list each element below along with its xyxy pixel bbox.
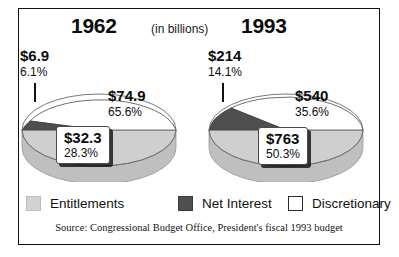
label-1962-discretionary-value: $74.9 <box>108 88 146 104</box>
label-1962-net-interest-percent: 6.1% <box>20 65 49 79</box>
square-swatch-icon-entitlements <box>26 196 41 211</box>
callout-1962-entitlements-percent: 28.3% <box>64 146 102 160</box>
square-swatch-icon-discretionary <box>288 196 303 211</box>
panel-title-1993: 1993 <box>241 14 287 38</box>
legend-item-entitlements: Entitlements <box>26 192 124 214</box>
callout-1962-entitlements: $32.3 28.3% <box>56 126 110 164</box>
label-1993-discretionary: $540 35.6% <box>295 88 329 119</box>
leader-line-1962 <box>34 83 36 102</box>
callout-1993-entitlements-value: $763 <box>266 130 300 147</box>
label-1993-net-interest: $214 14.1% <box>208 48 242 79</box>
panel-title-1962: 1962 <box>71 14 117 38</box>
source-note: Source: Congressional Budget Office, Pre… <box>18 222 380 233</box>
legend-label-net-interest: Net Interest <box>202 196 272 211</box>
callout-1993-entitlements: $763 50.3% <box>258 127 308 165</box>
callout-1993-entitlements-percent: 50.3% <box>266 147 300 161</box>
callout-1962-entitlements-value: $32.3 <box>64 129 102 146</box>
label-1962-discretionary-percent: 65.6% <box>108 105 146 119</box>
label-1993-net-interest-percent: 14.1% <box>208 65 242 79</box>
label-1962-discretionary: $74.9 65.6% <box>108 88 146 119</box>
legend-label-entitlements: Entitlements <box>50 196 124 211</box>
pie-chart-figure: 1962 (in billions) 1993 $6.9 6.1% $74.9 … <box>0 0 399 257</box>
leader-line-1993 <box>222 83 224 102</box>
label-1993-net-interest-value: $214 <box>208 48 242 64</box>
legend-item-net-interest: Net Interest <box>178 192 272 214</box>
legend-label-discretionary: Discretionary <box>312 196 391 211</box>
label-1993-discretionary-value: $540 <box>295 88 329 104</box>
units-label: (in billions) <box>151 22 208 36</box>
label-1962-net-interest-value: $6.9 <box>20 48 49 64</box>
chart-legend: Entitlements Net Interest Discretionary <box>26 192 374 214</box>
label-1962-net-interest: $6.9 6.1% <box>20 48 49 79</box>
label-1993-discretionary-percent: 35.6% <box>295 105 329 119</box>
square-swatch-icon-net-interest <box>178 196 193 211</box>
legend-item-discretionary: Discretionary <box>288 192 391 214</box>
